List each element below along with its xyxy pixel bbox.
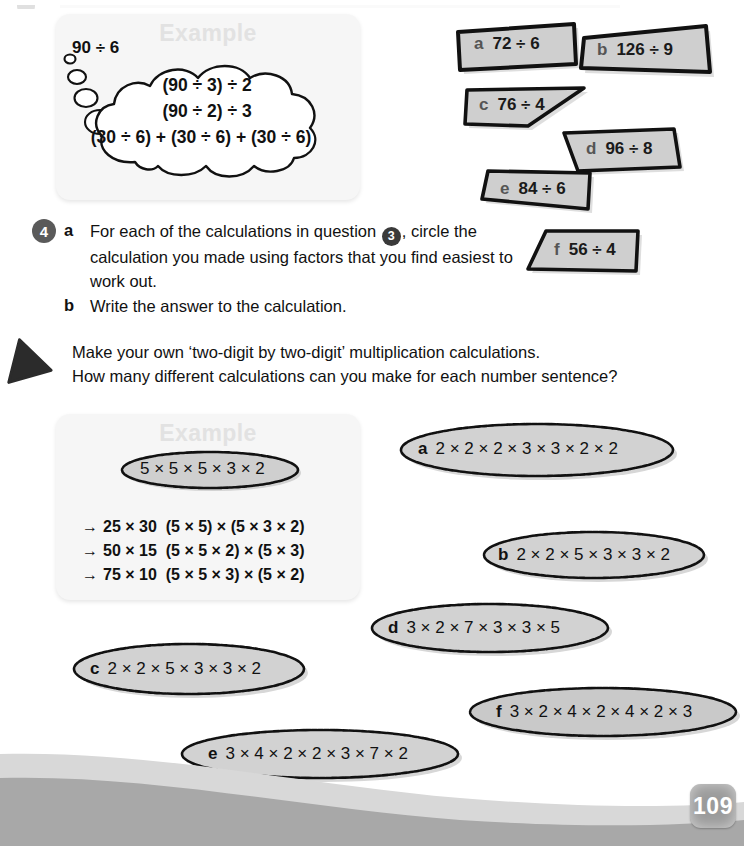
example-title-bottom: Example [56, 420, 360, 447]
shape-e[interactable]: e 84 ÷ 6 [478, 167, 600, 217]
question-4b-letter: b [64, 296, 74, 315]
activity-line-2: How many different calculations can you … [72, 364, 732, 389]
thought-bubble: (90 ÷ 3) ÷ 2 (90 ÷ 2) ÷ 3 (30 ÷ 6) + (30… [58, 46, 348, 186]
shape-f[interactable]: f 56 ÷ 4 [524, 227, 646, 279]
shape-e-calculation: 84 ÷ 6 [518, 179, 565, 199]
question-4-number: 4 [32, 219, 56, 243]
oval-b-letter: b [498, 545, 508, 565]
shape-a-letter: a [474, 34, 483, 54]
oval-a-label: a 2 × 2 × 2 × 3 × 3 × 2 × 2 [418, 439, 618, 459]
question-4a-text-before: For each of the calculations in question [90, 222, 376, 240]
workbook-page: Example 90 ÷ 6 (90 ÷ 3) ÷ 2 (90 ÷ 2) ÷ 3… [0, 0, 744, 846]
shape-c-letter: c [479, 95, 488, 115]
thought-bubble-line-2: (90 ÷ 2) ÷ 3 [102, 98, 312, 125]
page-number-badge: 109 [690, 784, 736, 828]
example-oval-label: 5 × 5 × 5 × 3 × 2 [140, 459, 265, 479]
example-line-2: →50 × 15 (5 × 5 × 2) × (5 × 3) [82, 542, 304, 560]
question-4b-text: Write the answer to the calculation. [90, 295, 530, 318]
shape-a-calculation: 72 ÷ 6 [492, 34, 539, 54]
oval-f[interactable]: f 3 × 2 × 4 × 2 × 4 × 2 × 3 [466, 684, 744, 742]
shape-a[interactable]: a 72 ÷ 6 [456, 22, 580, 74]
question-3-reference-badge[interactable]: 3 [382, 227, 401, 246]
thought-bubble-line-3: (30 ÷ 6) + (30 ÷ 6) + (30 ÷ 6) [51, 124, 351, 151]
oval-f-label: f 3 × 2 × 4 × 2 × 4 × 2 × 3 [496, 702, 692, 722]
shape-d-label: d 96 ÷ 8 [586, 139, 653, 159]
top-cutoff-strip [0, 0, 744, 9]
oval-b-label: b 2 × 2 × 5 × 3 × 3 × 2 [498, 545, 670, 565]
activity-line-1: Make your own ‘two-digit by two-digit’ m… [72, 340, 732, 365]
oval-c-expression: 2 × 2 × 5 × 3 × 3 × 2 [107, 659, 261, 679]
shape-b-letter: b [597, 40, 607, 60]
example-line-3-product: 75 × 10 [103, 566, 157, 583]
oval-d-letter: d [388, 618, 398, 638]
example-line-3-factors: (5 × 5 × 3) × (5 × 2) [166, 566, 305, 583]
oval-c-label: c 2 × 2 × 5 × 3 × 3 × 2 [90, 659, 261, 679]
shape-f-letter: f [554, 240, 560, 260]
shape-f-calculation: 56 ÷ 4 [569, 240, 616, 260]
triangle-icon [0, 330, 56, 388]
example-line-1: →25 × 30 (5 × 5) × (5 × 3 × 2) [82, 518, 304, 536]
example-line-1-product: 25 × 30 [103, 518, 157, 535]
shape-b[interactable]: b 126 ÷ 9 [578, 24, 714, 84]
shape-e-label: e 84 ÷ 6 [500, 179, 566, 199]
shape-c-label: c 76 ÷ 4 [479, 95, 545, 115]
shape-a-label: a 72 ÷ 6 [474, 34, 540, 54]
example-line-1-factors: (5 × 5) × (5 × 3 × 2) [166, 518, 305, 535]
oval-f-expression: 3 × 2 × 4 × 2 × 4 × 2 × 3 [510, 702, 692, 722]
example-line-2-arrow: → [82, 542, 98, 559]
question-4a-text: For each of the calculations in question… [90, 220, 530, 293]
shape-c-calculation: 76 ÷ 4 [497, 95, 544, 115]
question-4a-letter: a [64, 221, 73, 240]
oval-a[interactable]: a 2 × 2 × 2 × 3 × 3 × 2 × 2 [396, 420, 680, 482]
oval-c[interactable]: c 2 × 2 × 5 × 3 × 3 × 2 [70, 640, 312, 700]
example-line-3: →75 × 10 (5 × 5 × 3) × (5 × 2) [82, 566, 304, 584]
shape-b-label: b 126 ÷ 9 [597, 40, 673, 60]
example-line-2-product: 50 × 15 [103, 542, 157, 559]
example-line-2-factors: (5 × 5 × 2) × (5 × 3) [166, 542, 305, 559]
oval-a-letter: a [418, 439, 427, 459]
oval-f-letter: f [496, 702, 502, 722]
oval-c-letter: c [90, 659, 99, 679]
shape-b-calculation: 126 ÷ 9 [616, 40, 673, 60]
oval-d-label: d 3 × 2 × 7 × 3 × 3 × 5 [388, 618, 560, 638]
shape-d-letter: d [586, 139, 596, 159]
shape-d-calculation: 96 ÷ 8 [605, 139, 652, 159]
oval-b[interactable]: b 2 × 2 × 5 × 3 × 3 × 2 [480, 528, 712, 584]
oval-d[interactable]: d 3 × 2 × 7 × 3 × 3 × 5 [368, 600, 616, 658]
oval-d-expression: 3 × 2 × 7 × 3 × 3 × 5 [406, 618, 560, 638]
example-oval-expression: 5 × 5 × 5 × 3 × 2 [140, 459, 265, 479]
shape-f-label: f 56 ÷ 4 [554, 240, 616, 260]
thought-bubble-line-1: (90 ÷ 3) ÷ 2 [102, 72, 312, 99]
example-oval: 5 × 5 × 5 × 3 × 2 [118, 449, 304, 493]
shape-e-letter: e [500, 179, 509, 199]
oval-b-expression: 2 × 2 × 5 × 3 × 3 × 2 [516, 545, 670, 565]
example-line-3-arrow: → [82, 566, 98, 583]
bottom-wave-decoration [0, 736, 744, 846]
example-line-1-arrow: → [82, 518, 98, 535]
oval-a-expression: 2 × 2 × 2 × 3 × 3 × 2 × 2 [435, 439, 617, 459]
